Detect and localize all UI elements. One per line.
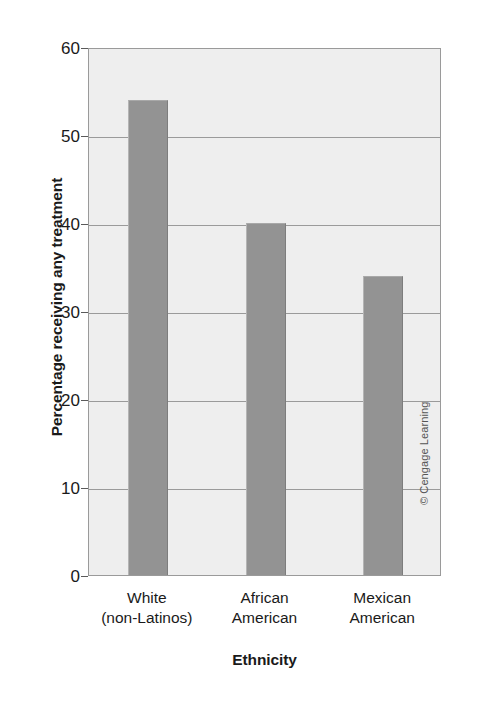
y-axis-tick-label: 50 (44, 128, 80, 145)
y-axis-tick-mark (81, 400, 88, 401)
x-axis-title: Ethnicity (88, 651, 441, 669)
y-axis-tick-label: 40 (44, 216, 80, 233)
x-axis-tick-label: MexicanAmerican (297, 588, 467, 629)
y-axis-tick-mark (81, 576, 88, 577)
bar (246, 223, 286, 575)
bar-chart-figure: Percentage receiving any treatment 60504… (0, 0, 490, 711)
y-axis-tick-mark (81, 224, 88, 225)
y-axis-tick-label: 20 (44, 392, 80, 409)
y-axis-tick-mark (81, 136, 88, 137)
y-axis-tick-mark (81, 48, 88, 49)
y-axis-tick-label: 30 (44, 304, 80, 321)
bar (128, 100, 168, 575)
y-axis-tick-label: 60 (44, 40, 80, 57)
y-axis-tick-mark (81, 312, 88, 313)
y-axis-tick-mark (81, 488, 88, 489)
bar (363, 276, 403, 575)
x-axis-tick-label-line: American (297, 608, 467, 628)
y-axis-tick-label: 10 (44, 480, 80, 497)
plot-area (88, 48, 441, 576)
y-axis-tick-label: 0 (44, 568, 80, 585)
copyright-credit: © Cengage Learning (418, 335, 430, 505)
x-axis-tick-label-line: Mexican (297, 588, 467, 608)
